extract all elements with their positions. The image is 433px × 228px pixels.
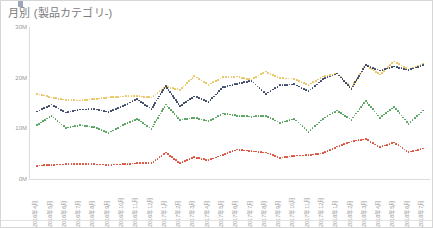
y-axis: 0M10M20M30M: [1, 27, 27, 179]
chart-widget[interactable]: 月別 (製品カテゴリ-) 0M10M20M30M 2016年4月2016年5月2…: [0, 0, 433, 228]
x-axis-tick-label: 2016年4月: [31, 200, 39, 227]
x-axis-tick-label: 2017年7月: [246, 200, 254, 227]
x-axis-tick-label: 2016年8月: [88, 200, 96, 227]
x-axis-tick-label: 2017年9月: [274, 200, 282, 227]
x-axis-tick-label: 2016年7月: [74, 200, 82, 227]
y-axis-tick-label: 10M: [15, 125, 27, 131]
x-axis-tick-label: 2016年6月: [60, 200, 68, 227]
x-axis-tick-label: 2017年8月: [260, 200, 268, 227]
x-axis-tick-label: 2017年3月: [188, 200, 196, 227]
x-axis-tick-label: 2017年6月: [231, 200, 239, 227]
x-axis-tick-label: 2018年6月: [403, 200, 411, 227]
y-axis-tick-label: 30M: [15, 24, 27, 30]
x-axis-tick-label: 2017年11月: [303, 197, 311, 227]
x-axis-tick-label: 2018年5月: [388, 200, 396, 227]
x-axis-tick-label: 2017年5月: [217, 200, 225, 227]
x-axis-tick-label: 2017年4月: [203, 200, 211, 227]
x-axis-tick-label: 2016年12月: [146, 197, 154, 227]
footer-divider: [1, 220, 433, 221]
x-axis-tick-label: 2018年4月: [374, 200, 382, 227]
x-axis-tick-label: 2018年1月: [331, 200, 339, 227]
y-axis-tick-label: 20M: [15, 75, 27, 81]
series-series-red: [30, 27, 430, 179]
x-axis-tick-label: 2018年3月: [360, 200, 368, 227]
x-axis-tick-label: 2016年10月: [117, 197, 125, 227]
x-axis-line: [29, 179, 430, 180]
x-axis-tick-label: 2017年12月: [317, 197, 325, 227]
x-axis-tick-label: 2016年11月: [131, 197, 139, 227]
x-axis-tick-label: 2016年9月: [103, 200, 111, 227]
x-axis-tick-label: 2017年2月: [174, 200, 182, 227]
x-axis-tick-label: 2016年5月: [46, 200, 54, 227]
y-axis-tick-label: 0M: [19, 176, 27, 182]
x-axis-tick-label: 2017年10月: [288, 197, 296, 227]
x-axis-tick-label: 2018年7月: [417, 200, 425, 227]
x-axis-tick-label: 2017年1月: [160, 200, 168, 227]
page-title: 月別 (製品カテゴリ-): [8, 4, 112, 20]
x-axis-tick-label: 2018年2月: [346, 200, 354, 227]
plot-area[interactable]: [30, 27, 430, 179]
